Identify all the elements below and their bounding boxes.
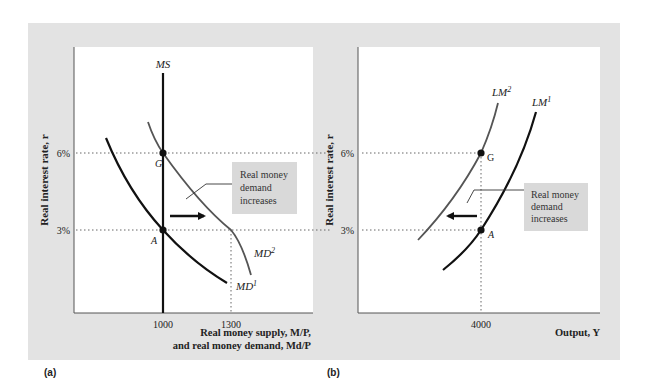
ytick-6pct-b: 6%: [341, 148, 354, 159]
point-a-a: [159, 226, 166, 233]
ytick-3pct-b: 3%: [341, 225, 354, 236]
point-g-label-a: G: [155, 158, 162, 169]
point-a-label-a: A: [150, 235, 158, 246]
xtick-1000: 1000: [153, 319, 173, 330]
figure: Real interest rate, r 6% 3% 1000 1300 MS…: [0, 0, 649, 389]
panel-label-a: (a): [44, 367, 56, 378]
point-g-b: [477, 149, 484, 156]
ms-label: MS: [155, 58, 171, 70]
xtick-4000: 4000: [471, 319, 491, 330]
panel-label-b: (b): [327, 367, 340, 378]
y-axis-label-a: Real interest rate, r: [38, 134, 50, 226]
callout-line2-a: demand: [240, 182, 272, 193]
callout-line1-b: Real money: [531, 189, 579, 200]
x-axis-label-a-line1: Real money supply, M/P,: [200, 327, 311, 338]
panel-b: [358, 47, 600, 313]
callout-line2-b: demand: [531, 201, 563, 212]
point-g-a: [159, 149, 166, 156]
point-g-label-b: G: [487, 152, 494, 163]
ytick-3pct-a: 3%: [57, 225, 70, 236]
callout-line1-a: Real money: [240, 169, 288, 180]
x-axis-label-a-line2: and real money demand, Md/P: [173, 340, 312, 351]
x-axis-label-b: Output, Y: [555, 327, 601, 338]
plot-area-b: [358, 47, 600, 313]
callout-line3-a: increases: [240, 195, 277, 206]
point-a-label-b: A: [487, 229, 495, 240]
point-a-b: [477, 226, 484, 233]
panel-a: [74, 47, 330, 313]
ytick-6pct-a: 6%: [57, 148, 70, 159]
y-axis-label-b: Real interest rate, r: [323, 134, 335, 226]
callout-line3-b: increases: [531, 213, 568, 224]
